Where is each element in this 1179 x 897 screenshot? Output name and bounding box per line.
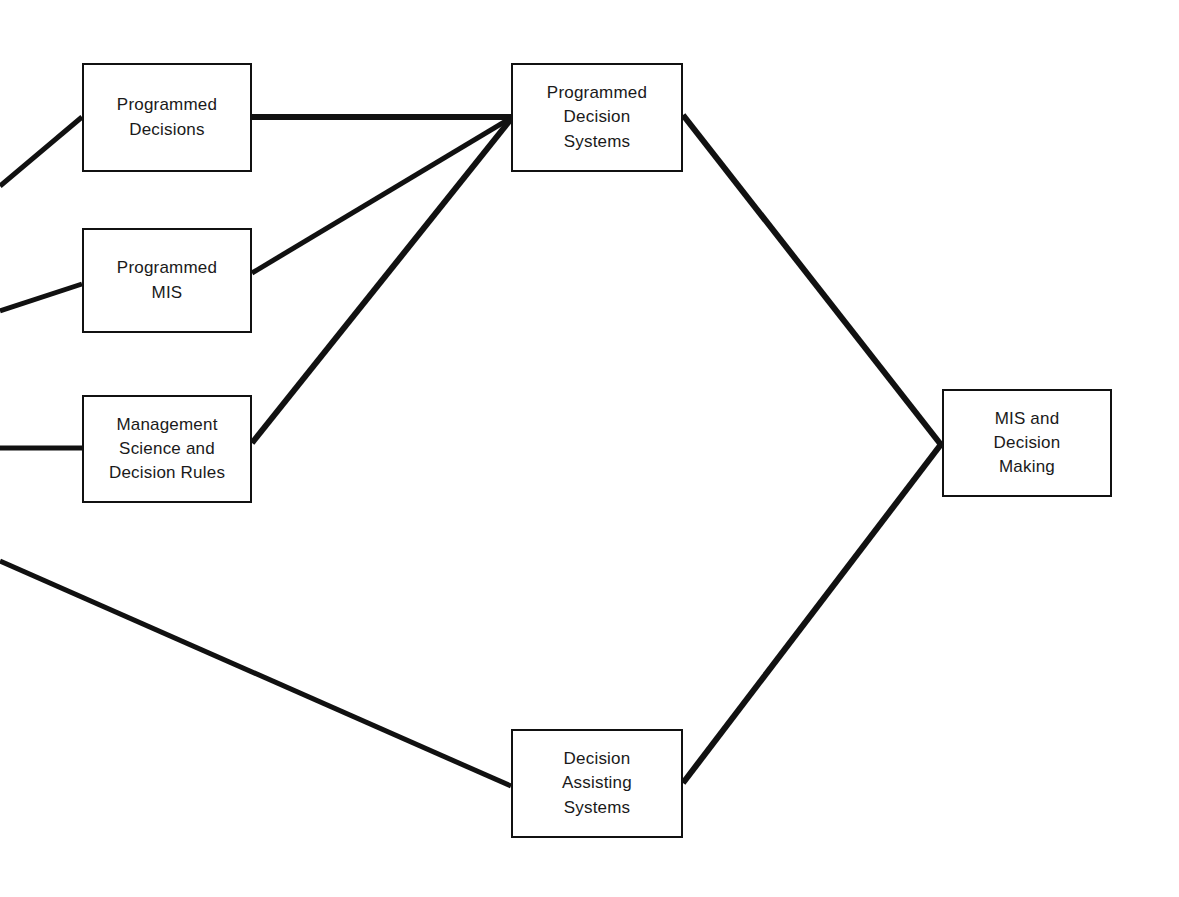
node-label-programmed-decisions: Programmed Decisions [111, 93, 223, 141]
connector-offscreen-to-programmed-decisions [0, 117, 82, 186]
connector-management-science-to-programmed-decision-systems [252, 119, 511, 443]
connector-offscreen-to-programmed-mis [0, 284, 82, 311]
connector-offscreen-to-decision-assisting-systems [0, 561, 511, 786]
node-label-programmed-decision-systems: Programmed Decision Systems [541, 81, 653, 153]
diagram-canvas: Programmed Decisions Programmed MIS Mana… [0, 0, 1179, 897]
node-label-programmed-mis: Programmed MIS [111, 256, 223, 304]
node-label-decision-assisting-systems: Decision Assisting Systems [556, 747, 638, 819]
connector-programmed-mis-to-programmed-decision-systems [252, 118, 511, 273]
node-programmed-decisions[interactable]: Programmed Decisions [82, 63, 252, 172]
node-label-management-science-and-decision-rules: Management Science and Decision Rules [103, 413, 231, 485]
node-decision-assisting-systems[interactable]: Decision Assisting Systems [511, 729, 683, 838]
node-programmed-decision-systems[interactable]: Programmed Decision Systems [511, 63, 683, 172]
node-label-mis-and-decision-making: MIS and Decision Making [988, 407, 1067, 479]
node-mis-and-decision-making[interactable]: MIS and Decision Making [942, 389, 1112, 497]
connector-decision-assisting-systems-to-mis-and-decision-making [683, 443, 942, 783]
connector-programmed-decision-systems-to-mis-and-decision-making [683, 115, 942, 446]
node-programmed-mis[interactable]: Programmed MIS [82, 228, 252, 333]
node-management-science-and-decision-rules[interactable]: Management Science and Decision Rules [82, 395, 252, 503]
